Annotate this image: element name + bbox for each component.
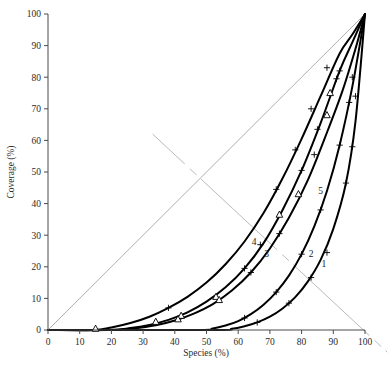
marker-plus bbox=[299, 167, 305, 173]
y-tick-label: 20 bbox=[32, 262, 42, 272]
y-axis-title: Coverage (%) bbox=[6, 145, 17, 198]
x-tick-label: 30 bbox=[138, 337, 148, 347]
x-tick-label: 50 bbox=[202, 337, 212, 347]
y-tick-label: 40 bbox=[32, 199, 42, 209]
anti-diagonal-reference-line bbox=[153, 134, 388, 352]
curve-label-2: 2 bbox=[309, 249, 314, 259]
x-axis-title: Species (%) bbox=[183, 348, 229, 359]
y-tick-label: 80 bbox=[32, 73, 42, 83]
x-tick-label: 0 bbox=[46, 337, 51, 347]
marker-plus bbox=[333, 76, 339, 82]
y-tick-label: 0 bbox=[36, 325, 41, 335]
marker-triangle bbox=[152, 318, 159, 324]
curve-label-5: 5 bbox=[318, 186, 323, 196]
marker-plus bbox=[346, 99, 352, 105]
x-tick-label: 20 bbox=[107, 337, 117, 347]
marker-plus bbox=[254, 319, 260, 325]
marker-plus bbox=[324, 65, 330, 71]
y-tick-label: 10 bbox=[32, 294, 42, 304]
data-markers bbox=[92, 65, 358, 332]
curve-label-4: 4 bbox=[252, 237, 257, 247]
y-tick-label: 90 bbox=[32, 41, 42, 51]
curve-label-3: 3 bbox=[264, 249, 269, 259]
x-tick-label: 60 bbox=[233, 337, 243, 347]
marker-plus bbox=[257, 242, 263, 248]
marker-plus bbox=[337, 68, 343, 74]
y-tick-label: 60 bbox=[32, 136, 42, 146]
x-tick-label: 90 bbox=[329, 337, 339, 347]
species-coverage-chart: 0102030405060708090100010203040506070809… bbox=[0, 0, 388, 367]
marker-plus bbox=[337, 142, 343, 148]
x-tick-label: 40 bbox=[170, 337, 180, 347]
x-tick-label: 70 bbox=[265, 337, 275, 347]
y-tick-label: 70 bbox=[32, 104, 42, 114]
curve-label-1: 1 bbox=[321, 259, 326, 269]
x-tick-label: 100 bbox=[358, 337, 373, 347]
chart-canvas: 0102030405060708090100010203040506070809… bbox=[0, 0, 388, 367]
y-tick-label: 30 bbox=[32, 231, 42, 241]
x-tick-label: 10 bbox=[75, 337, 85, 347]
y-tick-label: 100 bbox=[27, 9, 42, 19]
marker-plus bbox=[343, 180, 349, 186]
marker-plus bbox=[318, 207, 324, 213]
x-tick-label: 80 bbox=[297, 337, 307, 347]
marker-plus bbox=[349, 144, 355, 150]
y-tick-label: 50 bbox=[32, 167, 42, 177]
axis-tick-labels: 0102030405060708090100010203040506070809… bbox=[27, 9, 373, 347]
